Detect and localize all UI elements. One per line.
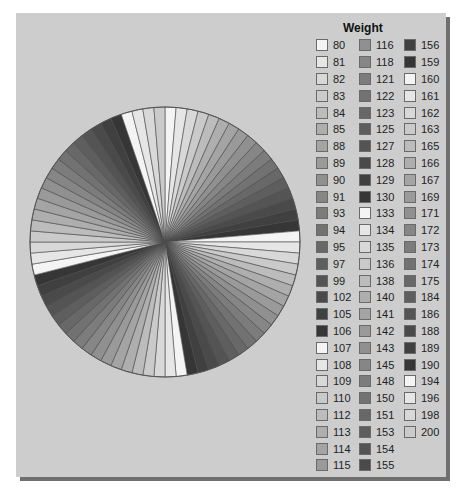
legend-item-141: 141 [359,306,394,323]
legend-label: 128 [376,157,394,169]
legend-swatch [404,258,416,270]
legend-label: 165 [421,140,439,152]
legend-item-83: 83 [316,87,351,104]
legend-item-196: 196 [404,390,439,407]
legend-item-136: 136 [359,255,394,272]
legend-item-122: 122 [359,87,394,104]
legend-swatch [359,140,371,152]
legend-swatch [359,359,371,371]
legend-swatch [404,39,416,51]
legend-label: 115 [333,459,351,471]
legend-swatch [404,140,416,152]
legend-item-97: 97 [316,255,351,272]
legend-swatch [316,140,328,152]
legend-label: 81 [333,56,345,68]
legend-label: 161 [421,90,439,102]
legend-item-142: 142 [359,323,394,340]
legend-label: 88 [333,140,345,152]
legend-item-130: 130 [359,188,394,205]
legend-label: 121 [376,73,394,85]
legend-item-107: 107 [316,339,351,356]
legend-label: 85 [333,123,345,135]
legend-label: 148 [376,375,394,387]
legend-swatch [404,426,416,438]
legend-item-123: 123 [359,104,394,121]
legend-label: 136 [376,258,394,270]
legend-label: 175 [421,275,439,287]
legend-label: 173 [421,241,439,253]
legend-swatch [359,325,371,337]
legend-swatch [359,39,371,51]
legend-item-198: 198 [404,407,439,424]
legend-swatch [359,375,371,387]
legend-item-88: 88 [316,138,351,155]
legend-item-200: 200 [404,423,439,440]
legend-item-151: 151 [359,407,394,424]
legend-label: 112 [333,409,351,421]
legend-swatch [316,73,328,85]
legend-swatch [359,224,371,236]
legend-item-125: 125 [359,121,394,138]
legend-item-118: 118 [359,54,394,71]
legend-item-156: 156 [404,37,439,54]
legend-label: 163 [421,123,439,135]
legend-swatch [316,191,328,203]
legend-item-112: 112 [316,407,351,424]
legend-item-188: 188 [404,323,439,340]
legend-item-190: 190 [404,356,439,373]
legend-label: 122 [376,90,394,102]
legend-item-135: 135 [359,239,394,256]
legend-item-140: 140 [359,289,394,306]
legend-swatch [316,308,328,320]
legend-swatch [404,107,416,119]
legend-swatch [316,443,328,455]
legend-item-121: 121 [359,71,394,88]
legend-label: 166 [421,157,439,169]
legend-swatch [359,157,371,169]
legend-label: 143 [376,342,394,354]
legend-label: 95 [333,241,345,253]
legend-item-102: 102 [316,289,351,306]
legend-swatch [359,409,371,421]
legend-label: 116 [376,39,394,51]
legend-swatch [359,459,371,471]
legend-label: 118 [376,56,394,68]
legend-item-153: 153 [359,423,394,440]
legend-item-134: 134 [359,222,394,239]
legend-item-145: 145 [359,356,394,373]
legend-label: 105 [333,308,351,320]
legend-label: 154 [376,443,394,455]
legend-label: 142 [376,325,394,337]
legend-swatch [359,342,371,354]
legend-label: 89 [333,157,345,169]
legend-item-174: 174 [404,255,439,272]
legend-label: 94 [333,224,345,236]
legend-swatch [359,174,371,186]
legend-label: 141 [376,308,394,320]
legend-swatch [404,56,416,68]
legend-item-173: 173 [404,239,439,256]
legend-swatch [316,375,328,387]
legend-item-160: 160 [404,71,439,88]
legend-item-155: 155 [359,457,394,474]
legend-label: 134 [376,224,394,236]
legend-label: 130 [376,191,394,203]
legend-item-113: 113 [316,423,351,440]
legend-label: 190 [421,359,439,371]
legend-label: 106 [333,325,351,337]
legend-item-159: 159 [404,54,439,71]
legend-swatch [359,207,371,219]
legend-label: 129 [376,174,394,186]
legend-item-95: 95 [316,239,351,256]
legend-label: 184 [421,291,439,303]
legend-label: 108 [333,359,351,371]
legend-swatch [316,291,328,303]
legend-swatch [316,275,328,287]
legend-swatch [316,459,328,471]
legend-swatch [359,258,371,270]
legend-item-175: 175 [404,272,439,289]
legend-swatch [316,56,328,68]
legend-column-2: 1161181211221231251271281291301331341351… [359,37,394,474]
legend-label: 127 [376,140,394,152]
legend-item-194: 194 [404,373,439,390]
